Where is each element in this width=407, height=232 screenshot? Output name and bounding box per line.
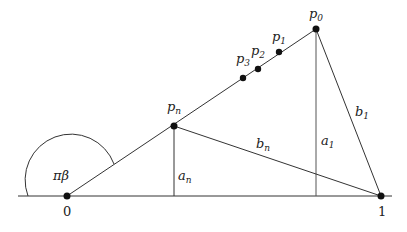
angle-label: πβ xyxy=(52,168,69,183)
label-bn: bn xyxy=(256,136,270,153)
point-p3 xyxy=(240,75,246,81)
segment-b1 xyxy=(316,29,381,196)
label-a1: a1 xyxy=(321,133,335,150)
segment-bn xyxy=(174,126,381,196)
angle-arc xyxy=(25,134,114,196)
point-p1 xyxy=(276,49,282,55)
point-p2 xyxy=(255,66,261,72)
unit-label: 1 xyxy=(378,204,386,219)
label-p0: p0 xyxy=(309,6,323,23)
label-b1: b1 xyxy=(355,104,369,121)
point-origin xyxy=(64,193,71,200)
label-an: an xyxy=(178,168,192,185)
point-pn xyxy=(171,123,178,130)
label-p1: p1 xyxy=(272,29,286,46)
label-pn: pn xyxy=(167,99,181,116)
label-p2: p2 xyxy=(251,43,265,60)
origin-label: 0 xyxy=(63,204,71,219)
point-unit xyxy=(378,193,385,200)
label-p3: p3 xyxy=(236,51,250,68)
geometry-diagram: πβ 0 1 p0 p1 p2 p3 pn a1 b1 an bn xyxy=(0,0,407,232)
point-p0 xyxy=(313,26,320,33)
